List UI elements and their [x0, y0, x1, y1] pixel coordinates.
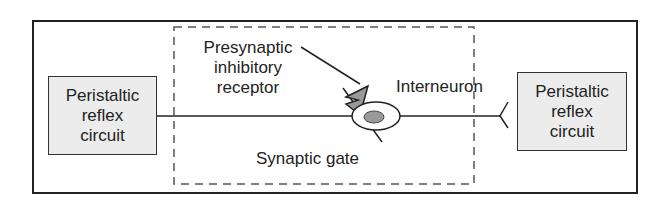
left-box-line1: Peristaltic [66, 86, 140, 106]
presynaptic-line3: receptor [188, 78, 308, 98]
right-peristaltic-box: Peristalticreflexcircuit [517, 72, 627, 151]
axon-terminal-icon [500, 102, 508, 128]
right-box-line1: Peristaltic [535, 82, 609, 102]
receptor-pointer [301, 47, 360, 84]
presynaptic-label: Presynaptic inhibitory receptor [188, 38, 308, 98]
nucleus-icon [364, 111, 384, 123]
presynaptic-line2: inhibitory [188, 58, 308, 78]
right-box-line3: circuit [535, 122, 609, 142]
right-box-line2: reflex [535, 102, 609, 122]
left-box-line3: circuit [66, 126, 140, 146]
left-peristaltic-box: Peristalticreflexcircuit [48, 76, 157, 155]
presynaptic-line1: Presynaptic [188, 38, 308, 58]
synaptic-gate-label: Synaptic gate [256, 149, 359, 169]
left-box-line2: reflex [66, 106, 140, 126]
interneuron-label: Interneuron [396, 77, 483, 97]
